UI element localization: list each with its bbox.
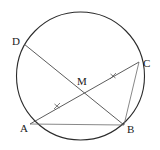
- chord-d-b: [24, 44, 124, 125]
- vertex-label-d: D: [12, 35, 20, 47]
- vertex-label-c: C: [143, 57, 150, 69]
- vertex-label-m: M: [77, 75, 87, 87]
- chord-a-b: [30, 124, 124, 125]
- geometry-figure: D C M A B: [0, 0, 160, 150]
- vertex-label-a: A: [20, 122, 28, 134]
- tick-mark-am: [54, 103, 60, 109]
- chord-a-c: [30, 62, 139, 124]
- vertex-label-b: B: [127, 123, 134, 135]
- geometry-canvas: D C M A B: [0, 0, 160, 150]
